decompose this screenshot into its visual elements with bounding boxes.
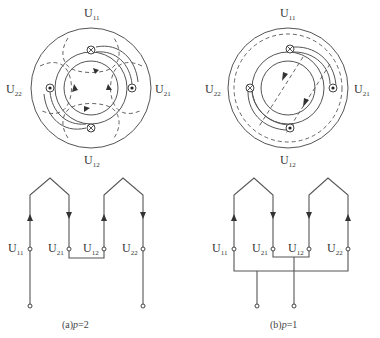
flux-a-bottom [63, 104, 119, 139]
rotor-ring-inner-b [261, 61, 315, 115]
label-b-bottom: U12 [280, 153, 296, 169]
flux-a-right [111, 63, 143, 114]
label-a-top: U11 [84, 6, 100, 22]
conductor-b-bottom-dot-icon [286, 124, 294, 132]
flux-a-left [40, 63, 72, 114]
terminal-b-u21 [271, 247, 275, 251]
lead-end-b-2 [292, 304, 296, 308]
label-b-top: U11 [280, 6, 296, 22]
terminal-b-u12 [307, 247, 311, 251]
flux-arrow-a-3-icon [84, 106, 90, 112]
conductor-a-left-dot-icon [46, 84, 54, 92]
flux-arrow-a-4-icon [72, 84, 78, 92]
coil-a1-wire [30, 178, 69, 249]
terminal-a-u12 [102, 247, 106, 251]
conductor-b-left-cross-icon [246, 84, 254, 92]
label-a-bottom: U12 [84, 153, 100, 169]
conductor-b-top-cross-icon [286, 45, 294, 53]
lead-end-a-1 [28, 304, 32, 308]
coil-a2-wire [104, 178, 143, 249]
arrow-a-down-2-icon [140, 212, 146, 219]
arrow-b-up-2-icon [345, 214, 351, 221]
rotor-ring-outer-a [55, 52, 127, 124]
label-a-left: U22 [6, 82, 22, 98]
label-b-left: U22 [205, 82, 221, 98]
flux-arrow-a-1-icon [93, 68, 99, 74]
panel-b-stator: U11 U12 U22 U21 [205, 6, 370, 169]
lead-end-b-1 [255, 304, 259, 308]
panel-a-circuit: U11 U21 U12 U22 (a)p=2 [8, 178, 146, 331]
flux-a-top [63, 38, 119, 73]
terminal-b-u22 [346, 247, 350, 251]
terminal-label-a-3: U12 [83, 241, 99, 257]
arrow-a-up-2-icon [101, 214, 107, 221]
flux-arrow-b-1-icon [282, 72, 288, 81]
terminal-b-u11 [232, 247, 236, 251]
label-b-right: U21 [354, 82, 370, 98]
terminal-a-u11 [28, 247, 32, 251]
coil-b2-wire [309, 178, 348, 249]
arrow-b-up-1-icon [231, 214, 237, 221]
terminal-label-a-2: U21 [48, 241, 64, 257]
coil-a-1b [96, 52, 132, 84]
arrow-a-down-1-icon [66, 212, 72, 219]
panel-b-circuit: U11 U21 U12 U22 (b)p=1 [212, 178, 351, 331]
lead-end-a-2 [141, 304, 145, 308]
winding-diagram-figure: U11 U12 U22 U21 [0, 0, 380, 338]
caption-b: (b)p=1 [270, 319, 297, 331]
caption-a: (a)p=2 [62, 319, 89, 331]
arrow-a-up-1-icon [27, 214, 33, 221]
terminal-label-a-1: U11 [8, 241, 24, 257]
label-a-right: U21 [155, 82, 171, 98]
conductor-a-top-cross-icon [87, 46, 95, 54]
terminal-label-b-1: U11 [212, 241, 228, 257]
conductor-b-right-dot-icon [329, 84, 337, 92]
coil-a-2b [50, 92, 86, 124]
panel-a-stator: U11 U12 U22 U21 [6, 6, 171, 169]
flux-arrow-a-2-icon [106, 84, 112, 90]
coil-b-1b [294, 52, 330, 84]
terminal-a-u22 [141, 247, 145, 251]
conductor-a-bottom-cross-icon [87, 124, 95, 132]
conductor-a-right-dot-icon [128, 84, 136, 92]
terminal-label-b-4: U22 [327, 241, 343, 257]
terminal-label-b-3: U12 [288, 241, 304, 257]
coil-b-2b [252, 92, 294, 125]
terminal-label-a-4: U22 [122, 241, 138, 257]
terminal-label-b-2: U21 [252, 241, 268, 257]
terminal-a-u21 [67, 247, 71, 251]
arrow-b-down-2-icon [306, 212, 312, 219]
coil-b1-wire [234, 178, 273, 249]
arrow-b-down-1-icon [270, 212, 276, 219]
